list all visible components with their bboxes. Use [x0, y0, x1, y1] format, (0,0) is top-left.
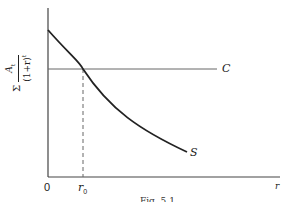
origin-label: 0 [44, 181, 50, 193]
x-axis-label: r [275, 181, 279, 191]
curve-s [48, 30, 187, 152]
line-c-label: C [222, 62, 230, 75]
figure-caption: Fig. 5.1 [140, 196, 175, 202]
diagram-canvas [0, 0, 291, 202]
curve-s-label: S [190, 146, 198, 159]
r0-label: r0 [78, 181, 87, 195]
y-axis-label: Σ At (1+r)t [4, 55, 32, 92]
